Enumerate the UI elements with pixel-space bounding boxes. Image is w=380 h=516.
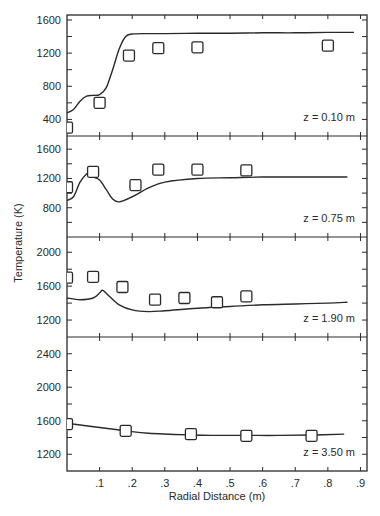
model-curve — [67, 290, 347, 311]
measured-point — [62, 122, 73, 133]
y-axis-title: Temperature (K) — [12, 203, 24, 282]
y-tick-label: 1600 — [37, 14, 61, 26]
y-tick-label: 1200 — [37, 448, 61, 460]
model-curve — [67, 173, 347, 202]
panel-1: 40080012001600z = 0.10 m — [37, 14, 367, 136]
measured-point — [62, 419, 73, 430]
x-tick-label: .8 — [323, 477, 332, 489]
y-tick-label: 2000 — [37, 246, 61, 258]
measured-point — [88, 166, 99, 177]
measured-point — [123, 50, 134, 61]
panel-3: 120016002000z = 1.90 m — [37, 237, 367, 337]
chart-panels: 40080012001600z = 0.10 m80012001600z = 0… — [37, 14, 367, 471]
measured-point — [62, 182, 73, 193]
x-axis: .1.2.3.4.5.6.7.8.9 — [95, 477, 365, 489]
y-tick-label: 1200 — [37, 314, 61, 326]
measured-point — [153, 43, 164, 54]
y-tick-label: 2400 — [37, 348, 61, 360]
panel-4: 1200160020002400z = 3.50 m — [37, 337, 367, 471]
measured-point — [322, 40, 333, 51]
measured-point — [120, 425, 131, 436]
y-tick-label: 2000 — [37, 381, 61, 393]
measured-point — [241, 430, 252, 441]
y-tick-label: 1600 — [37, 415, 61, 427]
outer-frame — [67, 15, 367, 471]
measured-point — [212, 297, 223, 308]
x-tick-label: .4 — [193, 477, 202, 489]
measured-point — [192, 42, 203, 53]
measured-point — [88, 271, 99, 282]
model-curve — [67, 32, 354, 112]
x-tick-label: .3 — [160, 477, 169, 489]
measured-point — [130, 180, 141, 191]
x-tick-label: .9 — [356, 477, 365, 489]
measured-point — [150, 294, 161, 305]
panel-annotation: z = 0.75 m — [303, 212, 355, 224]
x-tick-label: .5 — [225, 477, 234, 489]
y-tick-label: 400 — [43, 113, 61, 125]
x-tick-label: .6 — [258, 477, 267, 489]
x-axis-title: Radial Distance (m) — [169, 490, 266, 502]
measured-point — [153, 164, 164, 175]
measured-point — [241, 291, 252, 302]
panel-2: 80012001600z = 0.75 m — [37, 136, 367, 237]
panel-annotation: z = 3.50 m — [303, 446, 355, 458]
x-tick-label: .7 — [291, 477, 300, 489]
panel-annotation: z = 1.90 m — [303, 312, 355, 324]
temperature-profile-chart: 40080012001600z = 0.10 m80012001600z = 0… — [0, 0, 380, 516]
y-tick-label: 1600 — [37, 143, 61, 155]
x-tick-label: .1 — [95, 477, 104, 489]
y-tick-label: 1200 — [37, 47, 61, 59]
measured-point — [241, 165, 252, 176]
measured-point — [94, 97, 105, 108]
y-tick-label: 800 — [43, 202, 61, 214]
measured-point — [192, 164, 203, 175]
measured-point — [185, 429, 196, 440]
measured-point — [62, 272, 73, 283]
panel-annotation: z = 0.10 m — [303, 111, 355, 123]
measured-point — [179, 293, 190, 304]
y-tick-label: 800 — [43, 80, 61, 92]
measured-point — [306, 430, 317, 441]
plot-frame — [67, 15, 367, 471]
x-tick-label: .2 — [128, 477, 137, 489]
model-curve — [67, 423, 344, 435]
y-tick-label: 1200 — [37, 172, 61, 184]
measured-point — [117, 282, 128, 293]
y-tick-label: 1600 — [37, 280, 61, 292]
